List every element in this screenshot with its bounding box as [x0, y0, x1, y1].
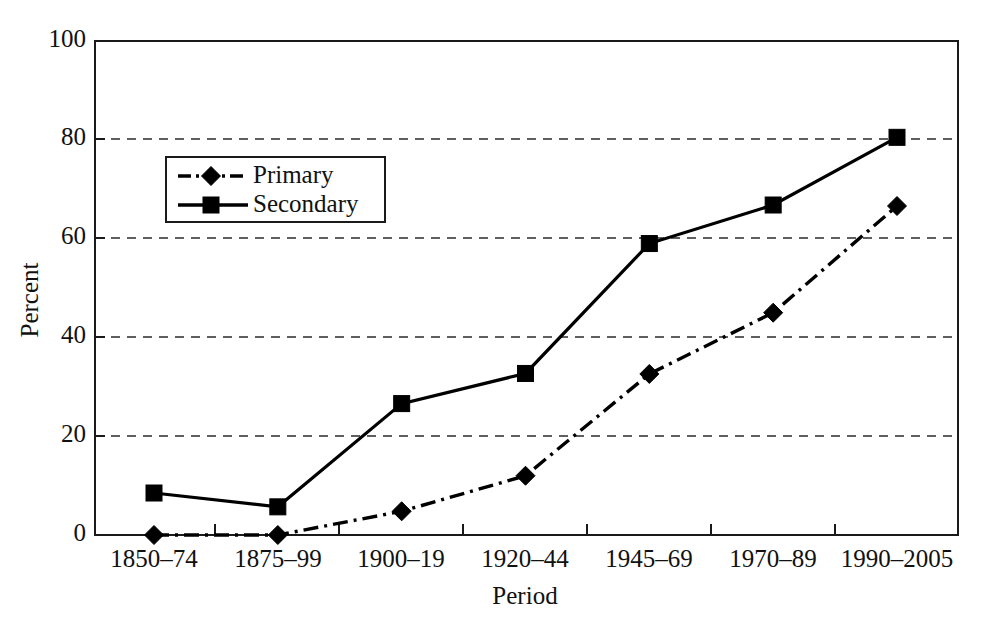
legend-label-primary: Primary [253, 161, 334, 188]
data-point-primary-1920–44 [516, 466, 535, 485]
data-point-secondary-1850–74 [146, 485, 162, 501]
data-point-primary-1850–74 [145, 526, 164, 545]
legend-label-secondary: Secondary [253, 190, 359, 217]
y-tick-label-100: 100 [49, 25, 87, 52]
x-tick-labels: 1850–74 1875–99 1900–19 1920–44 1945–69 … [110, 545, 953, 572]
plot-frame [95, 41, 958, 535]
data-point-primary-1945–69 [640, 364, 659, 383]
data-point-secondary-1900–19 [394, 396, 410, 412]
x-axis-title: Period [492, 582, 558, 609]
x-tick-label-1900-19: 1900–19 [357, 545, 445, 572]
x-tick-label-1850-74: 1850–74 [110, 545, 198, 572]
y-tickmarks [95, 41, 105, 436]
y-tick-label-60: 60 [61, 222, 86, 249]
x-tick-label-1990-2005: 1990–2005 [841, 545, 954, 572]
x-tick-label-1920-44: 1920–44 [481, 545, 569, 572]
chart-legend: Primary Secondary [166, 157, 385, 222]
data-point-secondary-1945–69 [641, 236, 657, 252]
y-tick-label-20: 20 [61, 420, 86, 447]
y-tick-label-40: 40 [61, 321, 86, 348]
data-point-secondary-1920–44 [518, 365, 534, 381]
data-point-primary-1970–89 [764, 303, 783, 322]
y-tick-labels: 100 80 60 40 20 0 [49, 25, 87, 546]
y-tick-label-0: 0 [74, 519, 87, 546]
data-point-secondary-1970–89 [765, 197, 781, 213]
y-tick-label-80: 80 [61, 123, 86, 150]
data-point-primary-1875–99 [268, 526, 287, 545]
y-axis-title: Percent [16, 262, 43, 337]
chart-page: 100 80 60 40 20 0 1850–74 1875–99 1900–1… [0, 0, 984, 632]
x-tick-label-1945-69: 1945–69 [605, 545, 693, 572]
data-point-secondary-1875–99 [270, 499, 286, 515]
data-point-secondary-1990–2005 [889, 129, 905, 145]
x-tick-label-1970-89: 1970–89 [729, 545, 817, 572]
x-tick-label-1875-99: 1875–99 [234, 545, 322, 572]
legend-marker-square-icon [203, 197, 219, 213]
data-point-primary-1900–19 [392, 502, 411, 521]
line-chart: 100 80 60 40 20 0 1850–74 1875–99 1900–1… [0, 0, 984, 632]
